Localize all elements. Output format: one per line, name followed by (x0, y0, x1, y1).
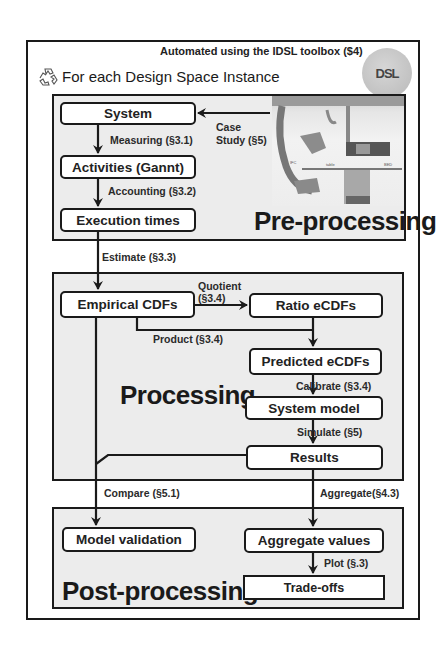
node-trade-offs: Trade-offs (243, 575, 385, 600)
node-aggregate-values: Aggregate values (244, 528, 384, 553)
label-quotient-2: (§3.4) (198, 292, 225, 304)
label-compare: Compare (§5.1) (104, 487, 180, 499)
node-system-model: System model (245, 396, 383, 420)
connectors (0, 0, 446, 659)
node-execution-times: Execution times (60, 208, 196, 232)
label-product: Product (§3.4) (153, 333, 223, 345)
node-predicted-ecdfs: Predicted eCDFs (249, 348, 382, 375)
label-measuring: Measuring (§3.1) (110, 134, 193, 146)
node-ratio-ecdfs: Ratio eCDFs (249, 293, 383, 318)
label-estimate: Estimate (§3.3) (102, 251, 176, 263)
node-model-validation: Model validation (62, 527, 196, 552)
label-calibrate: Calibrate (§3.4) (296, 380, 371, 392)
node-results: Results (246, 445, 383, 470)
node-activities: Activities (Gannt) (60, 155, 196, 179)
label-plot: Plot (§.3) (324, 557, 368, 569)
label-accounting: Accounting (§3.2) (108, 185, 196, 197)
label-aggregate: Aggregate(§4.3) (320, 487, 399, 499)
label-case-study-2: Study (§5) (216, 134, 267, 146)
label-simulate: Simulate (§5) (297, 426, 362, 438)
label-quotient-1: Quotient (198, 280, 241, 292)
label-case-study-1: Case (216, 121, 241, 133)
node-system: System (60, 102, 196, 125)
node-empirical-cdfs: Empirical CDFs (60, 291, 195, 318)
